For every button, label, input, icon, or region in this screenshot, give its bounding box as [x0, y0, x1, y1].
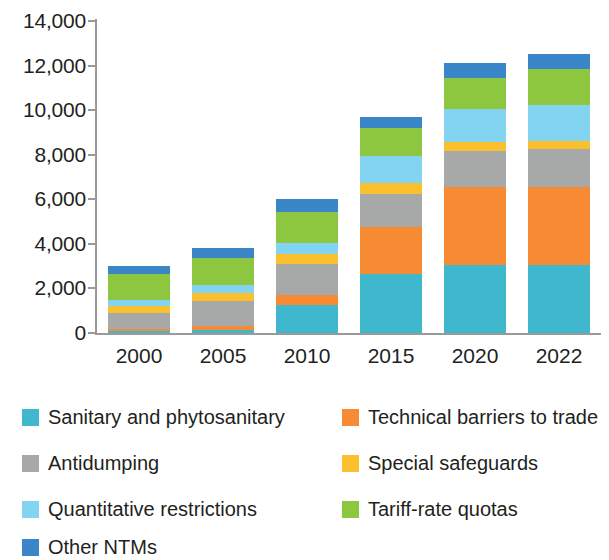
x-axis-tick-label: 2022	[514, 344, 604, 368]
legend-swatch-icon	[22, 455, 39, 472]
legend-swatch-icon	[22, 409, 39, 426]
legend-swatch-icon	[342, 455, 359, 472]
legend-item[interactable]: Antidumping	[22, 450, 159, 476]
bar-segment	[276, 199, 338, 211]
y-axis-tick-label: 12,000	[2, 55, 86, 76]
bar-segment	[360, 128, 422, 156]
bar-segment	[108, 300, 170, 307]
bar-2005	[192, 248, 254, 333]
y-axis-tick-label: 2,000	[2, 277, 86, 298]
y-axis-tick-label: 14,000	[2, 10, 86, 31]
bar-segment	[528, 54, 590, 68]
bar-segment	[192, 330, 254, 333]
y-axis-tick-label: 4,000	[2, 233, 86, 254]
bar-segment	[276, 212, 338, 243]
legend-item[interactable]: Technical barriers to trade	[342, 404, 598, 430]
y-axis-tick	[88, 332, 96, 334]
legend-swatch-icon	[342, 409, 359, 426]
x-axis-tick-label: 2015	[346, 344, 436, 368]
stacked-bar-chart: 02,0004,0006,0008,00010,00012,00014,000 …	[0, 0, 609, 392]
bar-segment	[108, 313, 170, 329]
bar-segment	[528, 149, 590, 187]
y-axis-tick-label: 8,000	[2, 144, 86, 165]
plot-area	[97, 21, 601, 333]
legend-swatch-icon	[342, 501, 359, 518]
bar-segment	[276, 264, 338, 295]
bar-segment	[192, 293, 254, 301]
legend-item[interactable]: Tariff-rate quotas	[342, 496, 518, 522]
y-axis-tick-label: 10,000	[2, 99, 86, 120]
bar-segment	[528, 265, 590, 333]
bar-segment	[192, 301, 254, 327]
y-axis-tick-label: 0	[2, 322, 86, 343]
legend-swatch-icon	[22, 539, 39, 556]
y-axis-tick-label: 6,000	[2, 188, 86, 209]
legend-label: Tariff-rate quotas	[368, 498, 518, 520]
bar-2000	[108, 266, 170, 333]
legend-swatch-icon	[22, 501, 39, 518]
x-axis-tick-label: 2000	[94, 344, 184, 368]
bar-segment	[360, 156, 422, 183]
legend-item[interactable]: Special safeguards	[342, 450, 538, 476]
bar-segment	[444, 187, 506, 265]
y-axis-tick	[88, 65, 96, 67]
bar-segment	[108, 266, 170, 274]
bar-segment	[360, 194, 422, 227]
x-axis-tick-label: 2010	[262, 344, 352, 368]
legend-label: Antidumping	[48, 452, 159, 474]
legend-label: Other NTMs	[48, 536, 157, 558]
bar-segment	[108, 306, 170, 313]
bar-segment	[444, 109, 506, 142]
legend-item[interactable]: Other NTMs	[22, 534, 157, 560]
bar-segment	[444, 151, 506, 187]
bar-segment	[276, 305, 338, 333]
bar-segment	[192, 285, 254, 293]
x-axis-tick-label: 2020	[430, 344, 520, 368]
bar-segment	[444, 142, 506, 151]
bar-segment	[528, 187, 590, 265]
bar-segment	[276, 243, 338, 254]
bar-segment	[528, 69, 590, 105]
legend-label: Sanitary and phytosanitary	[48, 406, 285, 428]
bar-segment	[360, 274, 422, 333]
bar-segment	[360, 183, 422, 194]
legend-item[interactable]: Quantitative restrictions	[22, 496, 257, 522]
bar-segment	[192, 258, 254, 285]
bar-segment	[444, 78, 506, 109]
bar-segment	[276, 295, 338, 305]
chart-legend: Sanitary and phytosanitaryTechnical barr…	[22, 404, 602, 549]
y-axis-tick	[88, 287, 96, 289]
y-axis-tick	[88, 20, 96, 22]
bar-segment	[528, 105, 590, 142]
y-axis-tick	[88, 154, 96, 156]
bar-segment	[276, 254, 338, 264]
bar-segment	[360, 227, 422, 274]
bar-2010	[276, 199, 338, 333]
legend-item[interactable]: Sanitary and phytosanitary	[22, 404, 285, 430]
y-axis-tick	[88, 198, 96, 200]
x-axis-line	[95, 333, 601, 335]
bar-segment	[528, 141, 590, 149]
bar-segment	[444, 265, 506, 333]
bar-2020	[444, 63, 506, 333]
bar-segment	[108, 331, 170, 333]
bar-segment	[192, 248, 254, 258]
y-axis-tick	[88, 243, 96, 245]
legend-label: Technical barriers to trade	[368, 406, 598, 428]
bar-2015	[360, 117, 422, 333]
x-axis-tick-label: 2005	[178, 344, 268, 368]
y-axis-tick	[88, 109, 96, 111]
legend-label: Special safeguards	[368, 452, 538, 474]
bar-segment	[444, 63, 506, 77]
bar-2022	[528, 54, 590, 333]
bar-segment	[360, 117, 422, 128]
legend-label: Quantitative restrictions	[48, 498, 257, 520]
bar-segment	[108, 274, 170, 300]
